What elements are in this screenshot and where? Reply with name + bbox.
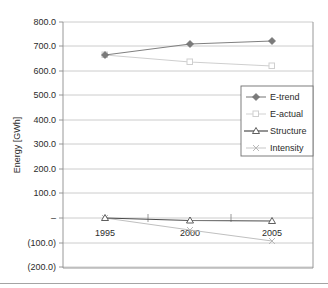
legend-label-structure: Structure	[270, 126, 307, 136]
chart-legend[interactable]: E-trend E-actual Structure	[241, 86, 313, 156]
legend-label-e-actual: E-actual	[270, 109, 303, 119]
x-tick-label-1995: 1995	[95, 228, 115, 238]
chart-figure: 800.0 700.0 600.0 500.0 400.0 300.0 200.…	[0, 0, 328, 288]
x-tick-label-2005: 2005	[262, 228, 282, 238]
y-tick-label-minus200: (200.0)	[27, 262, 56, 272]
square-icon	[253, 111, 259, 117]
y-tick-label-minus100: (100.0)	[27, 238, 56, 248]
line-chart: 800.0 700.0 600.0 500.0 400.0 300.0 200.…	[0, 0, 328, 288]
marker-e-actual-2005	[269, 63, 275, 69]
y-tick-label-700: 700.0	[33, 41, 56, 51]
y-tick-label-600: 600.0	[33, 66, 56, 76]
y-tick-label-100: 100.0	[33, 188, 56, 198]
y-tick-label-200: 200.0	[33, 164, 56, 174]
marker-e-actual-2000	[187, 59, 193, 65]
legend-label-e-trend: E-trend	[270, 92, 300, 102]
y-tick-label-500: 500.0	[33, 90, 56, 100]
y-tick-label-800: 800.0	[33, 17, 56, 27]
y-tick-label-300: 300.0	[33, 139, 56, 149]
y-axis-title: Energy [GWh]	[12, 117, 22, 174]
legend-label-intensity: Intensity	[270, 143, 304, 153]
y-tick-label-0: –	[51, 213, 56, 223]
y-tick-label-400: 400.0	[33, 115, 56, 125]
y-tick-labels: 800.0 700.0 600.0 500.0 400.0 300.0 200.…	[27, 17, 56, 272]
y-tick-marks	[59, 22, 63, 267]
